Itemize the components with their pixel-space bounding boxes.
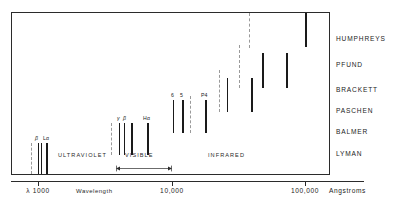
series-limit-humphreys (249, 13, 250, 48)
spectral-line-brackett-2 (251, 78, 253, 112)
x-axis-unit-label: Angstroms (329, 188, 366, 195)
spectral-line-balmer-3 (131, 123, 133, 155)
series-limit-paschen (190, 96, 191, 133)
x-axis-tick-10000 (172, 181, 173, 186)
spectral-line-lyman-beta (38, 143, 39, 174)
line-label-lyman-alpha: Lα (43, 136, 49, 141)
band-label-infrared: INFRARED (208, 153, 245, 159)
series-label-pfund: PFUND (336, 62, 363, 69)
series-label-balmer: BALMER (336, 129, 368, 136)
spectral-line-balmer-h-alpha (147, 123, 149, 155)
series-limit-brackett (219, 70, 220, 112)
line-label-lyman-beta: β (35, 136, 38, 141)
spectral-line-paschen-4 (205, 100, 207, 133)
spectral-line-paschen-6 (173, 100, 174, 133)
series-label-paschen: PASCHEN (336, 108, 373, 115)
spectral-line-humphreys-1 (305, 13, 307, 47)
series-label-brackett: BRACKETT (336, 87, 378, 94)
line-label-paschen-4: P4 (201, 93, 208, 98)
line-label-paschen-5: 5 (180, 93, 183, 98)
line-label-balmer-beta: β (123, 116, 126, 121)
line-label-balmer-h-alpha: Hα (143, 116, 150, 121)
series-label-humphreys: HUMPHREYS (336, 36, 386, 43)
series-label-lyman: LYMAN (336, 151, 362, 158)
x-axis-label-10000: 10,000 (160, 188, 184, 195)
spectral-line-balmer-gamma (119, 123, 120, 155)
line-label-paschen-6: 6 (171, 93, 174, 98)
spectral-line-pfund-1 (262, 53, 264, 88)
x-axis-label-100000: 100,000 (291, 188, 319, 195)
band-label-ultraviolet: ULTRAVIOLET (58, 153, 107, 159)
x-axis-label-1000: λ 1000 (26, 188, 49, 195)
series-limit-balmer (111, 123, 112, 155)
spectral-series-chart: β Lα γ β Hα 6 5 P4 ULTRAVIOLET VISIBLE I… (0, 0, 395, 205)
line-label-balmer-gamma: γ (117, 116, 120, 121)
x-axis-line (11, 181, 364, 182)
series-limit-lyman (31, 143, 32, 174)
x-axis-tick-1000 (38, 181, 39, 186)
visible-range-arrow (116, 165, 172, 172)
spectral-line-brackett-1 (227, 78, 228, 112)
spectral-line-paschen-5 (182, 100, 184, 133)
series-limit-pfund (239, 45, 240, 88)
spectral-line-balmer-beta (124, 123, 125, 155)
spectral-line-lyman-2 (41, 143, 42, 174)
spectral-line-pfund-2 (286, 53, 288, 88)
x-axis-caption: Wavelength (76, 188, 112, 194)
band-label-visible: VISIBLE (125, 153, 154, 159)
x-axis-tick-100000 (305, 181, 306, 186)
spectral-line-lyman-alpha (46, 143, 48, 174)
